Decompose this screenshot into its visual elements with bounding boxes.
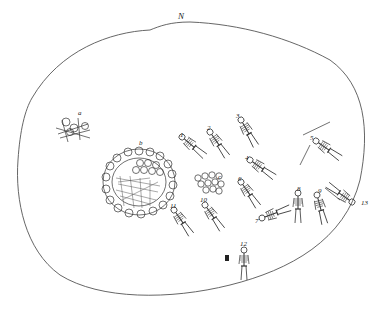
diagram-canvas: [0, 0, 385, 318]
label-5: 5: [310, 135, 314, 142]
label-8: 8: [297, 186, 301, 193]
skeleton-13: [325, 181, 358, 208]
label-13: 13: [361, 200, 368, 207]
label-c: c: [218, 174, 221, 181]
label-12: 12: [240, 241, 247, 248]
skeleton-8: [293, 190, 303, 223]
label-1: 1: [180, 132, 184, 139]
label-11: 11: [170, 203, 176, 210]
small-object: [225, 255, 229, 261]
label-2: 2: [207, 125, 211, 132]
skeleton-5: [311, 135, 344, 162]
label-10: 10: [200, 197, 207, 204]
north-label: N: [178, 12, 184, 21]
burial-plan-diagram: N a b c 1 2 3 4 5 6 7 8 9 10 11 12 13: [0, 0, 385, 318]
label-7: 7: [255, 218, 259, 225]
skeleton-7: [257, 203, 291, 224]
label-9: 9: [318, 188, 322, 195]
label-4: 4: [245, 155, 249, 162]
label-6: 6: [238, 176, 242, 183]
skeleton-12: [239, 247, 249, 280]
label-a: a: [78, 110, 82, 117]
enclosure-outline: [17, 22, 364, 295]
skeleton-10: [199, 200, 226, 233]
pit-b: [102, 147, 177, 218]
label-b: b: [139, 140, 143, 147]
label-3: 3: [236, 113, 240, 120]
skeleton-9: [311, 191, 329, 225]
skeleton-4: [245, 154, 278, 181]
group-a: [56, 118, 90, 142]
